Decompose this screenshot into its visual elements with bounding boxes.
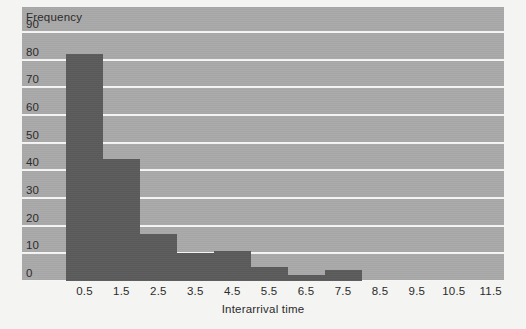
x-axis-tick-label: 3.5 [187, 285, 204, 297]
x-axis-tick-label: 2.5 [150, 285, 167, 297]
y-axis-tick-label: 10 [26, 239, 62, 251]
x-axis-tick-label: 6.5 [298, 285, 315, 297]
bars-layer [22, 7, 504, 281]
x-axis-tick-label: 1.5 [113, 285, 130, 297]
y-axis-tick-label: 50 [26, 129, 62, 141]
x-axis-tick-label: 0.5 [76, 285, 93, 297]
bar [66, 54, 103, 281]
bar [288, 275, 325, 281]
y-axis-tick-label: 0 [26, 267, 62, 279]
x-axis-tick-label: 11.5 [480, 285, 502, 297]
bar [140, 234, 177, 281]
bar [325, 270, 362, 281]
histogram-chart: Frequency Interarrival time 010203040506… [0, 0, 526, 329]
y-axis-tick-label: 90 [26, 18, 62, 30]
x-axis-tick-label: 5.5 [261, 285, 278, 297]
bar [214, 251, 251, 281]
y-axis-tick-label: 80 [26, 46, 62, 58]
bar [177, 253, 214, 281]
y-axis-tick-label: 70 [26, 73, 62, 85]
x-axis-tick-label: 8.5 [372, 285, 389, 297]
x-axis-title: Interarrival time [0, 303, 526, 315]
bar [103, 159, 140, 281]
y-axis-tick-label: 20 [26, 212, 62, 224]
x-axis-tick-label: 7.5 [335, 285, 352, 297]
x-axis-tick-label: 9.5 [409, 285, 426, 297]
y-axis-tick-label: 30 [26, 184, 62, 196]
bar [251, 267, 288, 281]
plot-area [22, 7, 504, 281]
x-axis-tick-label: 4.5 [224, 285, 241, 297]
y-axis-tick-label: 60 [26, 101, 62, 113]
x-axis-tick-label: 10.5 [442, 285, 465, 297]
y-axis-tick-label: 40 [26, 156, 62, 168]
